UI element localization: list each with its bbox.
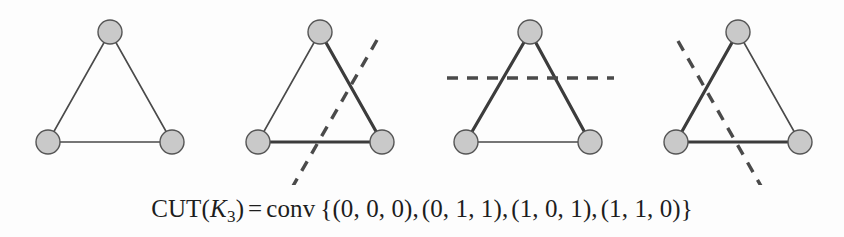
edge-right: [110, 32, 172, 142]
formula-separator-0: ,: [412, 195, 421, 222]
figure-page: CUT(K3)=conv{(0, 0, 0),(0, 1, 1),(1, 0, …: [0, 0, 844, 237]
edge-right: [738, 32, 800, 142]
node-bottom-left: [246, 130, 270, 154]
node-bottom-right: [370, 130, 394, 154]
formula-separator-1: ,: [502, 195, 511, 222]
panel-1: [36, 20, 184, 154]
formula-conv-operator: conv: [266, 195, 315, 222]
panel-4: [664, 20, 812, 185]
cut-polytope-figure: [0, 0, 844, 185]
formula-lhs-subscript: 3: [227, 207, 236, 226]
formula-row: CUT(K3)=conv{(0, 0, 0),(0, 1, 1),(1, 0, …: [0, 185, 844, 237]
edge-left: [258, 32, 320, 142]
cut-polytope-formula: CUT(K3)=conv{(0, 0, 0),(0, 1, 1),(1, 0, …: [151, 195, 693, 226]
formula-set-close-brace: }: [681, 195, 693, 222]
node-bottom-left: [454, 130, 478, 154]
formula-lhs-close-paren: ): [236, 195, 244, 222]
node-bottom-left: [36, 130, 60, 154]
formula-lhs-variable: K: [210, 195, 227, 222]
edge-right-cut: [530, 32, 590, 142]
panel-2: [246, 20, 394, 185]
edge-left-cut: [676, 32, 738, 142]
formula-point-3: (1, 1, 0): [601, 195, 681, 222]
node-bottom-right: [160, 130, 184, 154]
edge-left: [48, 32, 110, 142]
node-bottom-right: [788, 130, 812, 154]
node-top: [518, 20, 542, 44]
node-top: [308, 20, 332, 44]
node-bottom-left: [664, 130, 688, 154]
formula-point-2: (1, 0, 1): [511, 195, 591, 222]
formula-set-open-brace: {: [315, 195, 332, 222]
node-bottom-right: [578, 130, 602, 154]
formula-lhs-name: CUT: [151, 195, 201, 222]
panel-3: [447, 20, 614, 154]
formula-point-0: (0, 0, 0): [332, 195, 412, 222]
node-top: [726, 20, 750, 44]
node-top: [98, 20, 122, 44]
formula-equals-sign: =: [244, 195, 266, 222]
edge-left-cut: [466, 32, 530, 142]
formula-separator-2: ,: [591, 195, 600, 222]
formula-lhs-open-paren: (: [201, 195, 209, 222]
formula-point-1: (0, 1, 1): [422, 195, 502, 222]
